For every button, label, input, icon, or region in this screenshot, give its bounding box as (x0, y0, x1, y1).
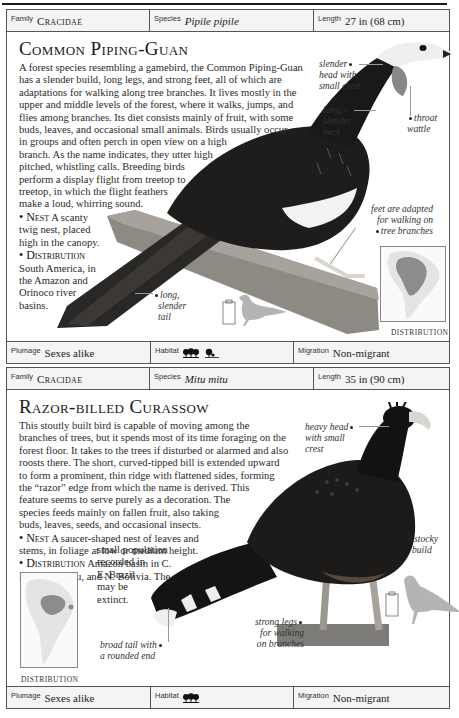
bird-silhouette-icon (239, 295, 287, 326)
distribution-line: the Amazon and (19, 275, 303, 287)
info-bar-top: Family Cracidae Species Pipile pipile Le… (7, 10, 449, 32)
plumage-label: Plumage (11, 691, 41, 700)
nest-line: twig nest, placed (19, 224, 303, 236)
forest-icon (183, 693, 199, 703)
species-value: Mitu mitu (185, 373, 228, 385)
migration-cell: Migration Non-migrant (294, 342, 449, 363)
distribution-extra-text: small population recorded in E. Brazil m… (97, 544, 168, 606)
migration-value: Non-migrant (333, 692, 390, 704)
length-label: Length (318, 14, 341, 23)
nest-heading: • Nest (19, 210, 49, 224)
forest-icon (183, 348, 199, 358)
description-line: in groups and often perch in open view o… (19, 136, 303, 148)
description-text: A forest species resembling a gamebird, … (19, 62, 303, 312)
species-entry-piping-guan: Family Cracidae Species Pipile pipile Le… (6, 9, 450, 364)
callout-tail: long, slender tail (153, 289, 186, 322)
family-value: Cracidae (37, 15, 82, 27)
length-value: 35 in (90 cm) (345, 373, 405, 385)
distribution-heading: • Distribution (19, 248, 85, 262)
notebook-scale-icon (386, 594, 398, 616)
nest-text: A saucer-shaped nest of leaves and (49, 533, 199, 544)
description-line: forest floor. It takes to the trees if d… (19, 445, 288, 457)
species-label: Species (154, 372, 181, 381)
info-bar-bottom: Plumage Sexes alike Habitat Migration No… (7, 686, 449, 708)
range-area-east (69, 605, 74, 610)
plumage-cell: Plumage Sexes alike (7, 342, 151, 363)
length-value: 27 in (68 cm) (345, 15, 405, 27)
migration-cell: Migration Non-migrant (294, 687, 449, 708)
description-line: flies among branches. Its diet consists … (19, 112, 303, 124)
mangrove-icon (205, 348, 219, 358)
description-line: This stoutly built bird is capable of mo… (19, 420, 288, 432)
description-line: A forest species resembling a gamebird, … (19, 62, 303, 74)
length-cell: Length 27 in (68 cm) (314, 10, 449, 31)
family-label: Family (11, 14, 33, 23)
description-line: feature seems to serve purely as a decor… (19, 494, 288, 506)
south-america-map (381, 247, 445, 321)
callout-head: heavy head with small crest (305, 421, 355, 454)
description-line: adaptations for walking along tree branc… (19, 87, 303, 99)
species-cell: Species Pipile pipile (150, 10, 314, 31)
description-line: the “razor” edge from which the name is … (19, 482, 288, 494)
info-bar-top: Family Cracidae Species Mitu mitu Length… (7, 368, 449, 390)
callout-leader (410, 86, 411, 116)
plumage-value: Sexes alike (45, 347, 95, 359)
species-entry-razor-billed-curassow: Family Cracidae Species Mitu mitu Length… (6, 367, 450, 709)
habitat-label: Habitat (155, 346, 179, 355)
callout-tail: broad tail with a rounded end (100, 639, 164, 661)
description-line: branch. As the name indicates, they utte… (19, 149, 303, 161)
description-line: buds, leaves, and occasional small anima… (19, 124, 303, 136)
distribution-caption: DISTRIBUTION (391, 328, 448, 337)
family-label: Family (11, 372, 33, 381)
habitat-cell: Habitat (151, 687, 294, 708)
callout-wattle: throat wattle (407, 112, 437, 134)
species-label: Species (154, 14, 181, 23)
callout-neck: long, slender neck (323, 104, 351, 137)
distribution-map (20, 572, 78, 668)
nest-line: • Nest A scanty (19, 211, 303, 224)
migration-value: Non-migrant (333, 347, 390, 359)
description-line: make a loud, whirring sound. (19, 198, 303, 210)
distribution-line: South America, in (19, 263, 303, 275)
description-line: to form a prominent, thin ridge with fla… (19, 470, 288, 482)
callout-leader (135, 293, 153, 294)
distribution-caption: DISTRIBUTION (21, 675, 78, 684)
plumage-cell: Plumage Sexes alike (7, 687, 151, 708)
distribution-map (380, 246, 446, 322)
callout-dot (349, 63, 352, 66)
callout-build: stocky build (407, 533, 438, 555)
distribution-heading: • Distribution (19, 556, 85, 570)
length-label: Length (318, 372, 341, 381)
habitat-cell: Habitat (151, 342, 294, 363)
page-top-rule (2, 3, 447, 5)
callout-leader (168, 608, 169, 642)
description-line: perform a display flight from treetop to (19, 174, 303, 186)
bird-silhouette-icon (404, 576, 459, 625)
callout-leader (359, 426, 389, 427)
plumage-value: Sexes alike (45, 692, 95, 704)
habitat-label: Habitat (155, 691, 179, 700)
callout-leader (359, 64, 383, 65)
description-line: pitched, whistling calls. Breeding birds (19, 161, 303, 173)
callout-leader (354, 110, 376, 111)
nest-text: A scanty (49, 212, 88, 223)
plumage-label: Plumage (11, 346, 41, 355)
info-bar-bottom: Plumage Sexes alike Habitat Migration No… (7, 341, 449, 363)
description-line: upper and middle levels of the forest, w… (19, 99, 303, 111)
description-line: treetop, in which the flight feathers (19, 186, 303, 198)
species-value: Pipile pipile (185, 15, 239, 27)
description-line: roosts there. The short, curved-tipped b… (19, 457, 288, 469)
species-cell: Species Mitu mitu (150, 368, 314, 389)
family-cell: Family Cracidae (7, 10, 150, 31)
family-cell: Family Cracidae (7, 368, 150, 389)
size-comparison (384, 572, 459, 632)
description-line: species feeds mainly on fallen fruit, al… (19, 507, 288, 519)
callout-feet: feet are adapted for walking on tree bra… (371, 203, 433, 236)
description-line: buds, leaves, seeds, and occasional inse… (19, 519, 288, 531)
nest-heading: • Nest (19, 531, 49, 545)
callout-head: slender head with small crest (319, 58, 360, 91)
description-line: branches of trees, but it spends most of… (19, 432, 288, 444)
migration-label: Migration (298, 691, 329, 700)
family-value: Cracidae (37, 373, 82, 385)
notebook-scale-icon (223, 302, 235, 324)
